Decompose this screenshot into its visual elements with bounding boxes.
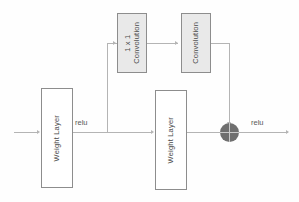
wire-conv-2-to-down-leg [211, 43, 230, 44]
wire-sum-to-output [236, 132, 288, 133]
arrowhead-into-weight-layer-1 [37, 130, 40, 134]
arrowhead-output [286, 130, 289, 134]
weight-layer-1-box[interactable]: Weight Layer [41, 88, 73, 188]
wire-shortcut-riser [107, 43, 108, 133]
relu-label-1: relu [75, 118, 88, 127]
conv-1x1-label: 1 x 1 Convolution [123, 22, 142, 64]
weight-layer-2-label: Weight Layer [166, 117, 175, 163]
arrowhead-into-weight-layer-2 [151, 130, 154, 134]
weight-layer-2-box[interactable]: Weight Layer [155, 90, 187, 190]
weight-layer-1-label: Weight Layer [52, 115, 61, 161]
arrowhead-into-conv-1x1 [113, 41, 116, 45]
wire-weight-layer-2-to-sum [186, 132, 222, 133]
relu-label-2: relu [251, 118, 264, 127]
wire-weight-layer-1-to-junction [72, 132, 108, 133]
wire-input-to-weight-layer-1 [14, 132, 37, 133]
wire-junction-to-weight-layer-2 [107, 132, 151, 133]
diagram-canvas: Weight Layer Weight Layer 1 x 1 Convolut… [0, 0, 299, 202]
wire-conv-1x1-to-conv-2 [146, 43, 178, 44]
wire-shortcut-downleg [229, 43, 230, 128]
conv-2-label: Convolution [191, 22, 200, 64]
conv-1x1-box[interactable]: 1 x 1 Convolution [117, 13, 147, 73]
arrowhead-into-conv-2 [175, 41, 178, 45]
sum-node-cross-vertical [229, 123, 230, 142]
conv-2-box[interactable]: Convolution [181, 13, 211, 73]
